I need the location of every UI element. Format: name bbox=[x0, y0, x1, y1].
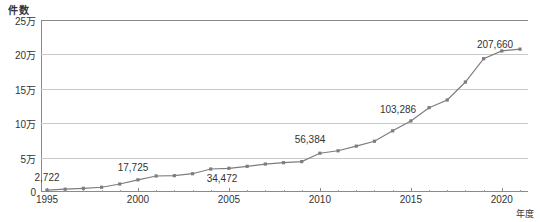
data-point-label: 103,286 bbox=[380, 104, 416, 115]
y-tick-label: 10万 bbox=[15, 116, 36, 131]
y-axis-tick-labels: 05万10万15万20万25万 bbox=[0, 20, 38, 192]
data-point-marker bbox=[136, 178, 139, 181]
data-point-marker bbox=[82, 187, 85, 190]
x-axis-title: 年度 bbox=[516, 207, 534, 220]
x-tick-label: 2005 bbox=[218, 194, 240, 205]
data-point-marker bbox=[336, 149, 339, 152]
y-tick-label: 15万 bbox=[15, 81, 36, 96]
data-point-label: 34,472 bbox=[207, 173, 238, 184]
data-point-marker bbox=[246, 165, 249, 168]
x-axis-tick-labels: 199520002005201020152020 bbox=[41, 194, 528, 208]
data-point-marker bbox=[518, 48, 521, 51]
x-tick-label: 2015 bbox=[400, 194, 422, 205]
data-point-marker bbox=[118, 182, 121, 185]
data-point-marker bbox=[191, 172, 194, 175]
data-point-marker bbox=[227, 167, 230, 170]
series-line bbox=[41, 20, 528, 192]
data-point-marker bbox=[300, 160, 303, 163]
data-point-marker bbox=[482, 57, 485, 60]
x-tick-label: 2010 bbox=[309, 194, 331, 205]
data-point-marker bbox=[155, 174, 158, 177]
data-point-label: 56,384 bbox=[295, 134, 326, 145]
x-tick-label: 2020 bbox=[491, 194, 513, 205]
data-point-marker bbox=[64, 188, 67, 191]
data-point-marker bbox=[209, 167, 212, 170]
data-point-marker bbox=[45, 189, 48, 192]
data-point-marker bbox=[355, 145, 358, 148]
data-point-marker bbox=[318, 152, 321, 155]
data-point-marker bbox=[100, 186, 103, 189]
data-point-marker bbox=[464, 80, 467, 83]
data-point-marker bbox=[173, 174, 176, 177]
data-point-label: 17,725 bbox=[118, 162, 149, 173]
data-point-marker bbox=[264, 162, 267, 165]
x-tick-label: 1995 bbox=[36, 194, 58, 205]
data-point-marker bbox=[446, 98, 449, 101]
plot-area bbox=[41, 20, 528, 192]
data-point-marker bbox=[391, 129, 394, 132]
data-point-marker bbox=[409, 119, 412, 122]
y-tick-label: 20万 bbox=[15, 47, 36, 62]
y-tick-label: 5万 bbox=[20, 150, 36, 165]
data-point-marker bbox=[373, 140, 376, 143]
line-chart: 件数 05万10万15万20万25万 199520002005201020152… bbox=[0, 0, 540, 222]
data-point-marker bbox=[427, 106, 430, 109]
y-tick-label: 25万 bbox=[15, 13, 36, 28]
data-point-marker bbox=[282, 161, 285, 164]
x-tick-label: 2000 bbox=[127, 194, 149, 205]
data-point-label: 2,722 bbox=[34, 172, 59, 183]
data-point-label: 207,660 bbox=[477, 39, 513, 50]
